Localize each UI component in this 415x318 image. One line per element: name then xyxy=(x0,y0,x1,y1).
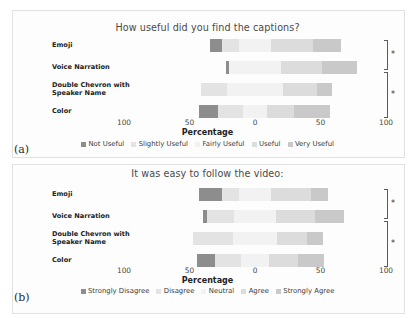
panel-a-title: How useful did you find the captions? xyxy=(0,22,415,33)
bar-row-2 xyxy=(0,83,415,96)
bar-segment-slightly-useful xyxy=(201,83,227,96)
significance-asterisk-0: * xyxy=(391,200,395,208)
bar-segment-strongly-disagree xyxy=(199,188,221,201)
x-tick-0: 100 xyxy=(117,118,131,127)
legend-swatch-icon-4 xyxy=(276,289,281,294)
panel-a-x-axis-title: Percentage xyxy=(0,128,415,137)
bar-segment-agree xyxy=(271,188,310,201)
legend-label-2: Fairly Useful xyxy=(202,140,244,148)
x-tick-1: 50 xyxy=(185,266,194,275)
bar-segment-neutral xyxy=(239,188,272,201)
panel-b-letter: (b) xyxy=(14,291,30,304)
x-tick-2: 0 xyxy=(253,118,258,127)
legend-item-2: Neutral xyxy=(201,287,234,295)
legend-label-3: Useful xyxy=(259,140,281,148)
legend-item-0: Strongly Disagree xyxy=(81,287,150,295)
panel-b-title: It was easy to follow the video: xyxy=(0,168,415,179)
panel-a-letter: (a) xyxy=(14,143,29,156)
bar-segment-very-useful xyxy=(322,61,356,74)
bar-segment-very-useful xyxy=(317,83,331,96)
legend-item-0: Not Useful xyxy=(81,140,124,148)
legend-swatch-icon-1 xyxy=(131,142,136,147)
bar-segment-strongly-agree xyxy=(307,232,323,245)
bar-row-2 xyxy=(0,232,415,245)
bar-segment-useful xyxy=(271,39,313,52)
bar-segment-disagree xyxy=(193,232,232,245)
bar-segment-fairly-useful xyxy=(239,39,272,52)
bar-segment-fairly-useful xyxy=(243,105,268,118)
figure-root: { "figure": { "panel_a_letter": "(a)", "… xyxy=(0,0,415,318)
bar-row-1 xyxy=(0,61,415,74)
bar-segment-neutral xyxy=(233,232,278,245)
legend-label-3: Agree xyxy=(249,287,269,295)
legend-item-4: Strongly Agree xyxy=(276,287,335,295)
bar-row-3 xyxy=(0,105,415,118)
legend-swatch-icon-2 xyxy=(195,142,200,147)
bar-row-0 xyxy=(0,188,415,201)
bar-row-1 xyxy=(0,210,415,223)
legend-item-4: Very Useful xyxy=(288,140,335,148)
significance-asterisk-1: * xyxy=(391,240,395,248)
legend-swatch-icon-3 xyxy=(241,289,246,294)
panel-a-legend: Not UsefulSlightly UsefulFairly UsefulUs… xyxy=(0,140,415,148)
significance-bracket-0 xyxy=(384,189,389,219)
legend-item-3: Useful xyxy=(252,140,281,148)
legend-item-2: Fairly Useful xyxy=(195,140,244,148)
bar-segment-fairly-useful xyxy=(227,83,283,96)
bar-segment-slightly-useful xyxy=(222,39,239,52)
bar-segment-disagree xyxy=(207,210,235,223)
legend-label-0: Not Useful xyxy=(88,140,124,148)
significance-asterisk-0: * xyxy=(391,51,395,59)
bar-segment-not-useful xyxy=(199,105,217,118)
bar-row-0 xyxy=(0,39,415,52)
significance-bracket-0 xyxy=(384,40,389,70)
legend-item-1: Slightly Useful xyxy=(131,140,188,148)
x-tick-4: 100 xyxy=(379,118,393,127)
x-tick-3: 50 xyxy=(316,266,325,275)
x-tick-1: 50 xyxy=(185,118,194,127)
significance-asterisk-1: * xyxy=(391,91,395,99)
bar-segment-useful xyxy=(281,61,323,74)
bar-segment-neutral xyxy=(234,210,276,223)
legend-item-3: Agree xyxy=(241,287,269,295)
bar-segment-agree xyxy=(277,232,307,245)
panel-b: It was easy to follow the video: EmojiVo… xyxy=(0,160,415,318)
legend-swatch-icon-3 xyxy=(252,142,257,147)
legend-label-1: Slightly Useful xyxy=(139,140,188,148)
legend-swatch-icon-4 xyxy=(288,142,293,147)
legend-label-4: Strongly Agree xyxy=(283,287,334,295)
legend-swatch-icon-0 xyxy=(81,142,86,147)
bar-segment-not-useful xyxy=(210,39,222,52)
legend-label-4: Very Useful xyxy=(295,140,334,148)
legend-item-1: Disagree xyxy=(156,287,194,295)
bar-segment-agree xyxy=(276,210,315,223)
bar-segment-slightly-useful xyxy=(218,105,243,118)
significance-bracket-1 xyxy=(384,221,389,267)
x-tick-0: 100 xyxy=(117,266,131,275)
bar-segment-strongly-agree xyxy=(315,210,344,223)
panel-b-legend: Strongly DisagreeDisagreeNeutralAgreeStr… xyxy=(0,287,415,295)
x-tick-2: 0 xyxy=(253,266,258,275)
panel-b-x-axis-title: Percentage xyxy=(0,276,415,285)
significance-bracket-1 xyxy=(384,72,389,118)
bar-segment-strongly-agree xyxy=(311,188,328,201)
legend-label-2: Neutral xyxy=(209,287,234,295)
bar-segment-useful xyxy=(283,83,317,96)
legend-label-0: Strongly Disagree xyxy=(88,287,149,295)
bar-segment-disagree xyxy=(222,188,239,201)
x-tick-3: 50 xyxy=(316,118,325,127)
legend-label-1: Disagree xyxy=(164,287,195,295)
panel-a: How useful did you find the captions? Em… xyxy=(0,0,415,160)
legend-swatch-icon-1 xyxy=(156,289,161,294)
legend-swatch-icon-2 xyxy=(201,289,206,294)
legend-swatch-icon-0 xyxy=(81,289,86,294)
x-tick-4: 100 xyxy=(379,266,393,275)
bar-segment-fairly-useful xyxy=(229,61,280,74)
bar-segment-very-useful xyxy=(294,105,331,118)
bar-segment-very-useful xyxy=(313,39,341,52)
bar-segment-useful xyxy=(267,105,293,118)
